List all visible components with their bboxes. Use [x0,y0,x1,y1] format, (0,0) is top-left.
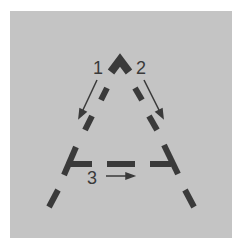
letter-a-stroke-diagram: 1 2 3 [0,0,238,246]
step-label-1: 1 [93,58,103,78]
right-leg-dash [164,145,178,174]
step-label-3: 3 [87,168,97,188]
right-leg-dash [185,190,194,207]
arrow-1-icon [79,109,86,118]
step-label-2: 2 [136,58,146,78]
left-leg-dash [85,116,92,130]
left-leg-dash [49,190,58,207]
right-leg-dash [149,116,157,130]
left-leg-dash [101,88,107,100]
apex-stroke [111,60,129,72]
right-leg-dash [135,88,142,100]
arrow-2-icon [156,109,163,118]
arrow-3-icon [126,173,134,179]
